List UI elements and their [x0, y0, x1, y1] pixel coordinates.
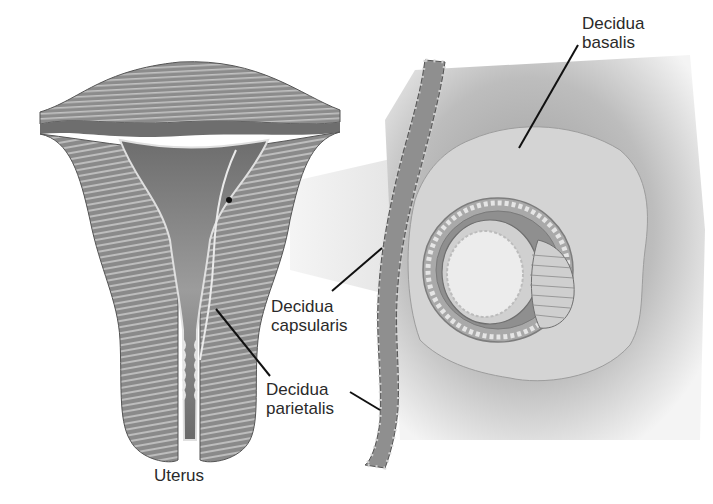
label-decidua-basalis: Decidua basalis	[582, 14, 644, 52]
leader-line-parietalis-detail	[350, 392, 380, 410]
label-line: Decidua	[582, 14, 644, 33]
label-decidua-capsularis: Decidua capsularis	[271, 297, 348, 335]
label-decidua-parietalis: Decidua parietalis	[266, 380, 334, 418]
label-line: Decidua	[271, 297, 348, 316]
label-line: Decidua	[266, 380, 334, 399]
implantation-detail	[365, 55, 705, 468]
label-line: capsularis	[271, 316, 348, 335]
decidua-diagram: Decidua basalis Decidua capsularis Decid…	[0, 0, 713, 504]
label-line: basalis	[582, 33, 644, 52]
uterus-caption: Uterus	[154, 466, 204, 485]
diagram-illustration	[0, 0, 713, 504]
label-line: parietalis	[266, 399, 334, 418]
